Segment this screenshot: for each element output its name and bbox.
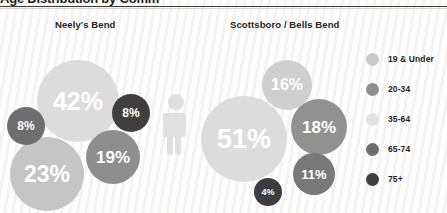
legend-label: 19 & Under	[388, 54, 434, 64]
bubble-value-label: 4%	[261, 188, 274, 197]
age-distribution-infographic: Age Distribution by Community Neely's Be…	[0, 0, 447, 213]
legend-label: 75+	[388, 174, 403, 184]
bubble-value-label: 8%	[122, 107, 139, 119]
bubble-value-label: 23%	[24, 163, 70, 186]
legend-swatch-icon	[366, 53, 379, 66]
bubble-neely-s-bend-19-under: 23%	[10, 137, 84, 211]
bubble-scottsboro-bells-bend-20-34: 18%	[291, 99, 347, 155]
bubble-scottsboro-bells-bend-75-: 4%	[254, 178, 282, 206]
bubble-value-label: 19%	[96, 149, 130, 166]
bubble-scottsboro-bells-bend-35-64: 51%	[201, 96, 287, 182]
person-icon	[163, 93, 189, 155]
legend-item-65-74: 65-74	[366, 134, 446, 164]
legend-label: 35-64	[388, 114, 410, 124]
legend-label: 65-74	[388, 144, 410, 154]
legend-swatch-icon	[366, 83, 379, 96]
header-divider-secondary	[0, 8, 447, 9]
legend-item-35-64: 35-64	[366, 104, 446, 134]
column-header-scottsboro-bells-bend: Scottsboro / Bells Bend	[230, 19, 339, 30]
bubble-value-label: 8%	[17, 120, 34, 132]
bubble-scottsboro-bells-bend-65-74: 11%	[293, 153, 335, 195]
bubble-value-label: 51%	[217, 126, 271, 153]
bubble-neely-s-bend-20-34: 19%	[86, 130, 140, 184]
bubble-value-label: 16%	[271, 77, 303, 93]
legend-swatch-icon	[366, 143, 379, 156]
bubble-value-label: 18%	[302, 119, 336, 136]
legend-item-20-34: 20-34	[366, 74, 446, 104]
legend-swatch-icon	[366, 173, 379, 186]
legend-item-75: 75+	[366, 164, 446, 194]
bubble-value-label: 11%	[301, 168, 326, 181]
bubble-neely-s-bend-75-: 8%	[112, 94, 150, 132]
bubble-neely-s-bend-65-74: 8%	[7, 107, 45, 145]
header-divider	[0, 6, 447, 7]
legend: 19 & Under20-3435-6465-7475+	[366, 44, 446, 194]
column-header-neelys-bend: Neely's Bend	[55, 19, 115, 30]
legend-item-19-under: 19 & Under	[366, 44, 446, 74]
legend-swatch-icon	[366, 113, 379, 126]
bubble-value-label: 42%	[53, 89, 103, 114]
legend-label: 20-34	[388, 84, 410, 94]
